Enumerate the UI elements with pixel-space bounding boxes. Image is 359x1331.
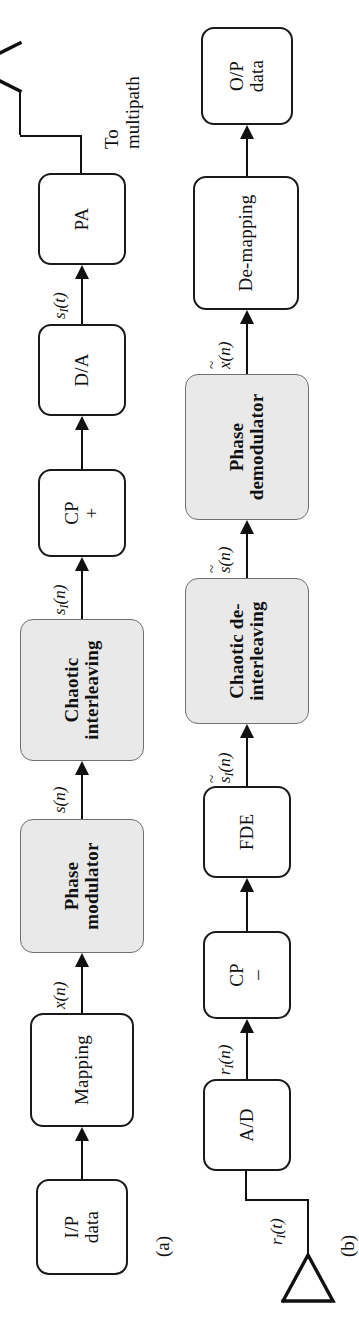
block-mapping: Mapping (30, 1013, 134, 1127)
signal-label-sI-n-tilde: ~sI(n) (215, 753, 237, 783)
block-chaotic-deinterleaving-line-0: Chaotic de- (227, 603, 247, 699)
block-chaotic-interleaving-line-0: Chaotic (62, 658, 82, 723)
block-cp-remove: CP – (203, 931, 291, 1019)
label-to-multipath: To multipath (102, 76, 143, 149)
block-phase-modulator-line-1: modulator (82, 842, 102, 929)
arrowhead-deinterleaver-to-phase-demodulator (240, 520, 254, 534)
block-chaotic-interleaving: Chaotic interleaving (20, 619, 144, 761)
signal-label-sI-t: sI(t) (50, 292, 72, 319)
block-de-mapping: De-mapping (193, 176, 299, 310)
block-cp-add-line-1: + (82, 508, 102, 519)
block-phase-modulator-line-0: Phase (62, 862, 82, 911)
wire-adc-to-cp-remove (246, 1025, 248, 1079)
block-phase-modulator: Phase modulator (20, 819, 144, 953)
block-cp-remove-line-0: CP (227, 963, 247, 987)
signal-label-rI-t: rI(t) (267, 1218, 289, 1245)
wire-antenna-to-adc-horizontal (307, 1199, 309, 1255)
arrowhead-interleaver-to-cp-add (75, 557, 89, 571)
caption-a: (a) (152, 1236, 174, 1257)
block-op-data: O/P data (201, 27, 293, 125)
arrowhead-dac-to-pa (75, 265, 89, 279)
block-dac-label: D/A (72, 353, 92, 386)
arrowhead-demapping-to-op-data (240, 125, 254, 139)
wire-pa-to-antenna-horizontal (80, 135, 82, 173)
arrowhead-fde-to-deinterleaver (240, 724, 254, 738)
block-phase-demodulator: Phase demodulator (185, 374, 309, 520)
caption-b: (b) (337, 1235, 359, 1257)
block-pa-label: PA (72, 208, 92, 231)
block-chaotic-deinterleaving: Chaotic de- interleaving (185, 578, 309, 724)
wire-fde-to-deinterleaver (246, 730, 248, 786)
block-phase-demodulator-line-1: demodulator (247, 394, 267, 501)
arrowhead-cp-add-to-dac (75, 416, 89, 430)
wire-antenna-to-adc-vertical (247, 1199, 309, 1201)
arrowhead-mapping-to-phase-modulator (75, 953, 89, 967)
block-ip-data-line-1: data (82, 1211, 102, 1243)
wire-mapping-to-phase-modulator (81, 959, 83, 1013)
block-de-mapping-label: De-mapping (236, 195, 256, 292)
block-cp-add: CP + (38, 469, 126, 557)
block-fde-label: FDE (237, 814, 257, 851)
signal-label-x-n: x(n) (50, 982, 70, 1009)
signal-label-rI-n: rI(n) (215, 1045, 237, 1075)
label-to-multipath-line-0: To (101, 129, 122, 149)
wire-adc-feed (245, 1169, 247, 1201)
signal-label-s-n-tilde: ~s(n) (215, 547, 235, 573)
block-cp-add-line-0: CP (62, 501, 82, 525)
block-pa: PA (38, 173, 126, 265)
arrowhead-phase-demodulator-to-demapping (240, 310, 254, 324)
block-adc: A/D (203, 1079, 291, 1171)
receiver-chain: rI(t) A/D rI(n) CP – FDE ~sI(n) Chaotic … (185, 0, 345, 1331)
receive-antenna (277, 1247, 339, 1307)
block-ip-data: I/P data (36, 1179, 128, 1275)
block-phase-demodulator-line-0: Phase (227, 423, 247, 472)
arrowhead-phase-modulator-to-interleaver (75, 761, 89, 775)
wire-pa-to-antenna-vertical (20, 135, 82, 137)
wire-antenna-lead (19, 91, 21, 135)
block-adc-label: A/D (237, 1108, 257, 1141)
wire-phase-demodulator-to-demapping (246, 316, 248, 374)
label-to-multipath-line-1: multipath (122, 76, 143, 149)
block-dac: D/A (38, 324, 126, 416)
transmit-antenna (0, 39, 24, 95)
signal-label-sI-n: sI(n) (50, 585, 72, 615)
block-ip-data-line-0: I/P (62, 1216, 82, 1239)
wire-interleaver-to-cp-add (81, 563, 83, 619)
arrowhead-adc-to-cp-remove (240, 1019, 254, 1033)
block-mapping-label: Mapping (72, 1035, 92, 1105)
signal-label-s-n: s(n) (50, 787, 70, 813)
transmitter-chain: I/P data Mapping x(n) Phase modulator s(… (2, 0, 162, 1331)
block-fde: FDE (203, 786, 291, 878)
block-cp-remove-line-1: – (247, 970, 267, 980)
block-chaotic-deinterleaving-line-1: interleaving (247, 601, 267, 701)
arrowhead-cp-remove-to-fde (240, 878, 254, 892)
signal-label-x-n-tilde: ~x(n) (215, 342, 235, 369)
wire-dac-to-pa (81, 272, 83, 324)
block-op-data-line-1: data (247, 60, 267, 92)
arrowhead-ip-to-mapping (75, 1127, 89, 1141)
block-chaotic-interleaving-line-1: interleaving (82, 640, 102, 740)
block-op-data-line-0: O/P (227, 61, 247, 91)
